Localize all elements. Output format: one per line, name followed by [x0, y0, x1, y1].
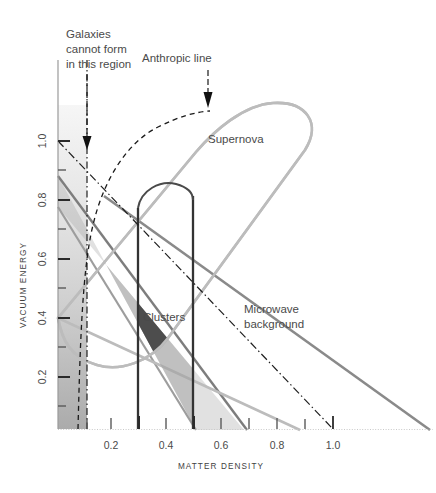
anthropic-annotation-arrowhead [204, 92, 213, 108]
galaxies-annotation-line3: in this region [66, 58, 131, 70]
clusters-label: Clusters [143, 311, 185, 323]
galaxies-annotation-line1: Galaxies [66, 28, 111, 40]
y-tick-label: 1.0 [36, 134, 48, 149]
galaxies-cannot-form-region [58, 105, 87, 429]
anthropic-annotation-label: Anthropic line [142, 52, 212, 64]
y-tick-labels: 0.2 0.4 0.6 0.8 1.0 [36, 134, 48, 385]
x-tick-label: 1.0 [326, 439, 341, 451]
x-tick-label: 0.4 [159, 439, 174, 451]
chart-canvas: 0.2 0.4 0.6 0.8 1.0 0.2 0.4 0.6 0.8 1.0 … [0, 0, 436, 493]
microwave-label-line2: background [244, 318, 304, 330]
y-tick-label: 0.6 [36, 252, 48, 267]
y-axis-title: VACUUM ENERGY [19, 242, 28, 328]
x-tick-label: 0.2 [104, 439, 119, 451]
x-tick-labels: 0.2 0.4 0.6 0.8 1.0 [104, 439, 341, 451]
y-tick-label: 0.8 [36, 193, 48, 208]
x-tick-label: 0.6 [214, 439, 229, 451]
galaxies-annotation-line2: cannot form [66, 43, 127, 55]
x-tick-label: 0.8 [270, 439, 285, 451]
y-tick-label: 0.4 [36, 311, 48, 326]
x-axis-title: MATTER DENSITY [178, 462, 264, 471]
cosmology-constraints-figure: 0.2 0.4 0.6 0.8 1.0 0.2 0.4 0.6 0.8 1.0 … [0, 0, 436, 493]
supernova-label: Supernova [208, 133, 264, 145]
anthropic-annotation: Anthropic line [142, 52, 213, 108]
y-tick-label: 0.2 [36, 370, 48, 385]
microwave-label-line1: Microwave [244, 303, 299, 315]
